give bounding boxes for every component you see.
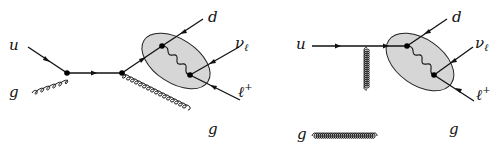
label-d: d bbox=[208, 8, 218, 26]
vertex-dot bbox=[431, 72, 437, 78]
feynman-diagram-s-channel: u g d νℓ ℓ+ g bbox=[9, 8, 253, 138]
label-lepton: ℓ+ bbox=[476, 84, 491, 104]
arrow-icon bbox=[210, 85, 217, 90]
label-nu: νℓ bbox=[235, 34, 248, 53]
label-d: d bbox=[452, 8, 462, 26]
vertex-dot bbox=[64, 70, 70, 76]
vertex-dot bbox=[187, 72, 193, 78]
arrow-icon bbox=[43, 56, 50, 62]
feynman-diagram-t-channel: u d νℓ ℓ+ g g bbox=[296, 8, 491, 143]
label-g-out: g bbox=[449, 120, 459, 138]
arrow-icon bbox=[335, 44, 341, 49]
label-g-out: g bbox=[208, 120, 218, 138]
label-g-in: g bbox=[297, 125, 307, 143]
decay-blob bbox=[132, 22, 220, 100]
incoming-gluon bbox=[32, 80, 68, 94]
arrow-icon bbox=[91, 71, 97, 76]
vertex-dot bbox=[119, 70, 125, 76]
arrow-icon bbox=[209, 59, 216, 64]
label-u: u bbox=[296, 35, 306, 53]
incoming-gluon bbox=[312, 133, 377, 138]
vertex-dot bbox=[404, 43, 410, 49]
label-g-in: g bbox=[9, 83, 19, 101]
label-lepton: ℓ+ bbox=[238, 81, 253, 101]
label-u: u bbox=[9, 36, 19, 54]
exchanged-gluon bbox=[364, 47, 369, 90]
vertex-dot bbox=[159, 43, 165, 49]
label-nu: νℓ bbox=[475, 34, 488, 53]
